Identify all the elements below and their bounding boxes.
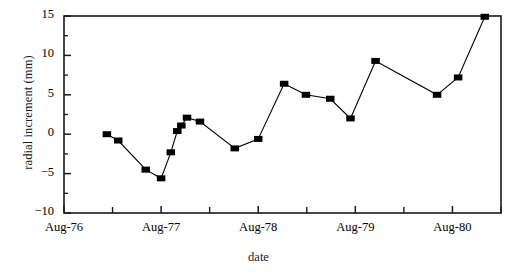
data-point-marker bbox=[346, 115, 355, 121]
radial-increment-chart: radial increment (mm) date 151050−5−10 A… bbox=[0, 0, 517, 275]
data-point-marker bbox=[433, 92, 442, 98]
x-tick-label: Aug-78 bbox=[218, 220, 298, 235]
x-tick-label: Aug-80 bbox=[412, 220, 492, 235]
x-tick-label: Aug-76 bbox=[24, 220, 104, 235]
data-point-marker bbox=[141, 167, 150, 173]
data-point-marker bbox=[302, 92, 311, 98]
data-point-marker bbox=[280, 81, 289, 87]
y-axis-ticks bbox=[64, 16, 71, 213]
data-point-marker bbox=[167, 149, 176, 155]
y-tick-label: −5 bbox=[14, 165, 54, 180]
y-tick-label: −10 bbox=[14, 204, 54, 219]
y-tick-label: 15 bbox=[14, 7, 54, 22]
y-tick-label: 5 bbox=[14, 86, 54, 101]
x-tick-label: Aug-77 bbox=[121, 220, 201, 235]
data-point-marker bbox=[177, 123, 186, 129]
y-tick-label: 0 bbox=[14, 125, 54, 140]
data-point-markers bbox=[103, 14, 489, 182]
series-line bbox=[107, 17, 485, 179]
data-point-marker bbox=[231, 145, 240, 151]
y-tick-label: 10 bbox=[14, 46, 54, 61]
plot-border bbox=[64, 16, 501, 213]
data-point-marker bbox=[254, 136, 263, 142]
data-point-marker bbox=[481, 14, 490, 20]
data-point-marker bbox=[157, 175, 166, 181]
data-point-marker bbox=[173, 128, 182, 134]
data-point-marker bbox=[454, 74, 463, 80]
x-tick-label: Aug-79 bbox=[315, 220, 395, 235]
data-point-marker bbox=[103, 131, 112, 137]
data-series-line bbox=[107, 17, 485, 179]
data-point-marker bbox=[326, 96, 335, 102]
x-axis-label: date bbox=[0, 250, 517, 265]
data-point-marker bbox=[196, 119, 205, 125]
data-point-marker bbox=[183, 115, 192, 121]
plot-frame bbox=[64, 16, 501, 213]
x-axis-ticks bbox=[64, 206, 501, 213]
data-point-marker bbox=[371, 58, 380, 64]
data-point-marker bbox=[114, 138, 123, 144]
